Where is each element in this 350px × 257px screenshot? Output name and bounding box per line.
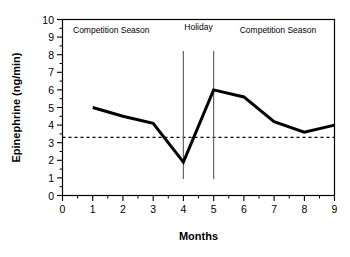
x-tick-label: 8 (301, 203, 307, 215)
y-tick-label: 8 (48, 49, 54, 61)
y-tick-label: 4 (48, 119, 54, 131)
y-tick-label: 10 (42, 14, 54, 26)
y-axis-title: Epinephrine (ng/min) (10, 52, 22, 162)
y-tick-label: 3 (48, 137, 54, 149)
x-tick-label: 1 (90, 203, 96, 215)
competition-season-2-label: Competition Season (240, 25, 317, 35)
x-tick-label: 0 (60, 203, 66, 215)
y-tick-label: 9 (48, 31, 54, 43)
chart-canvas: 10 9 8 7 6 5 4 3 2 1 0 (0, 0, 350, 257)
x-tick-label: 5 (211, 203, 217, 215)
epinephrine-line-chart: 10 9 8 7 6 5 4 3 2 1 0 (0, 0, 350, 257)
competition-season-1-label: Competition Season (73, 25, 150, 35)
plot-frame (63, 20, 335, 196)
x-tick-label: 9 (332, 203, 338, 215)
y-tick-label: 7 (48, 66, 54, 78)
x-tick-label: 2 (120, 203, 126, 215)
y-tick-label: 0 (48, 190, 54, 202)
y-tick-label: 6 (48, 84, 54, 96)
x-tick-label: 3 (150, 203, 156, 215)
x-tick-label: 4 (180, 203, 186, 215)
y-tick-label: 2 (48, 154, 54, 166)
x-tick-label: 6 (241, 203, 247, 215)
y-tick-label: 5 (48, 102, 54, 114)
x-axis-tick-labels: 0 1 2 3 4 5 6 7 8 9 (60, 203, 338, 215)
y-tick-label: 1 (48, 172, 54, 184)
y-axis-tick-labels: 10 9 8 7 6 5 4 3 2 1 0 (42, 14, 54, 202)
x-tick-label: 7 (271, 203, 277, 215)
x-axis-title: Months (179, 230, 218, 242)
holiday-label: Holiday (184, 22, 213, 32)
